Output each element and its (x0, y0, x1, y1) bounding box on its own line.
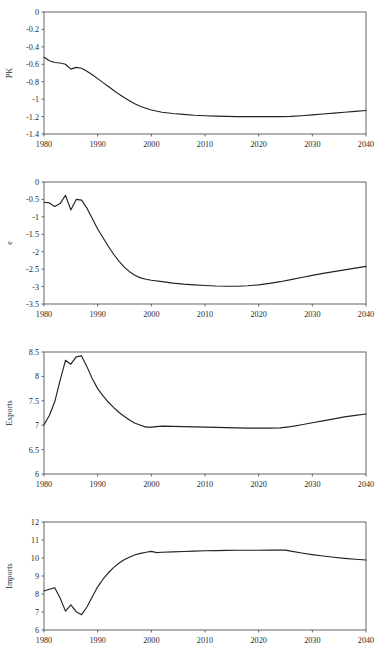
y-tick-label: 8.5 (29, 348, 39, 357)
y-tick-label: 7.5 (29, 397, 39, 406)
y-tick-label: 12 (31, 518, 39, 527)
y-tick-label: 8 (35, 590, 39, 599)
y-tick-label: -1 (32, 213, 39, 222)
x-tick-label: 2010 (197, 480, 213, 489)
y-tick-label: 6.5 (29, 446, 39, 455)
y-axis-title: Imports (5, 563, 14, 588)
x-tick-label: 1990 (89, 636, 105, 645)
data-series-line (44, 356, 366, 428)
panel-exports: 8.587.576.561980199020002010202020302040… (0, 340, 389, 510)
x-tick-label: 2030 (304, 480, 320, 489)
y-tick-label: -0.4 (26, 43, 39, 52)
y-tick-label: 10 (31, 554, 39, 563)
y-tick-label: 0 (35, 8, 39, 17)
y-tick-label: -1 (32, 95, 39, 104)
x-tick-label: 2020 (250, 636, 266, 645)
x-tick-label: 2020 (250, 480, 266, 489)
y-tick-label: 8 (35, 372, 39, 381)
x-tick-label: 2010 (197, 636, 213, 645)
y-tick-label: 6 (35, 626, 39, 635)
y-tick-label: -1.4 (26, 130, 39, 139)
y-tick-label: -0.5 (26, 195, 39, 204)
panel-imports: 12111098761980199020002010202020302040Im… (0, 510, 389, 666)
x-tick-label: 1990 (89, 310, 105, 319)
chart-pk: 0-0.2-0.4-0.6-0.8-1-1.2-1.41980199020002… (0, 0, 389, 170)
data-series-line (44, 57, 366, 116)
x-tick-label: 1980 (36, 480, 52, 489)
x-tick-label: 1990 (89, 140, 105, 149)
y-tick-label: -3 (32, 283, 39, 292)
y-tick-label: -0.8 (26, 78, 39, 87)
x-tick-label: 2040 (358, 480, 374, 489)
y-tick-label: 11 (31, 536, 39, 545)
y-tick-label: -1.2 (26, 113, 39, 122)
y-tick-label: -0.2 (26, 25, 39, 34)
y-tick-label: 7 (35, 608, 39, 617)
y-tick-label: -3.5 (26, 300, 39, 309)
y-tick-label: -0.6 (26, 60, 39, 69)
y-tick-label: -2 (32, 248, 39, 257)
chart-exports: 8.587.576.561980199020002010202020302040… (0, 340, 389, 510)
x-tick-label: 2020 (250, 140, 266, 149)
x-tick-label: 2000 (143, 480, 159, 489)
y-tick-label: 0 (35, 178, 39, 187)
plot-frame (44, 352, 366, 474)
x-tick-label: 2030 (304, 636, 320, 645)
y-tick-label: 6 (35, 470, 39, 479)
y-axis-title: Exports (5, 400, 14, 425)
figure-multi-panel-line-charts: 0-0.2-0.4-0.6-0.8-1-1.2-1.41980199020002… (0, 0, 389, 666)
x-tick-label: 2030 (304, 140, 320, 149)
x-tick-label: 2040 (358, 140, 374, 149)
y-axis-title: e (5, 241, 14, 245)
x-tick-label: 2030 (304, 310, 320, 319)
x-tick-label: 2010 (197, 310, 213, 319)
data-series-line (44, 195, 366, 286)
panel-e: 0-0.5-1-1.5-2-2.5-3-3.519801990200020102… (0, 170, 389, 340)
data-series-line (44, 550, 366, 615)
chart-e: 0-0.5-1-1.5-2-2.5-3-3.519801990200020102… (0, 170, 389, 340)
x-tick-label: 2000 (143, 140, 159, 149)
y-tick-label: -2.5 (26, 265, 39, 274)
chart-imports: 12111098761980199020002010202020302040Im… (0, 510, 389, 666)
x-tick-label: 1990 (89, 480, 105, 489)
y-tick-label: -1.5 (26, 230, 39, 239)
x-tick-label: 1980 (36, 636, 52, 645)
x-tick-label: 2020 (250, 310, 266, 319)
x-tick-label: 2000 (143, 310, 159, 319)
x-tick-label: 2000 (143, 636, 159, 645)
plot-frame (44, 522, 366, 630)
x-tick-label: 1980 (36, 310, 52, 319)
x-tick-label: 2040 (358, 310, 374, 319)
panel-pk: 0-0.2-0.4-0.6-0.8-1-1.2-1.41980199020002… (0, 0, 389, 170)
y-axis-title: PK (5, 68, 14, 79)
x-tick-label: 2040 (358, 636, 374, 645)
y-tick-label: 7 (35, 421, 39, 430)
y-tick-label: 9 (35, 572, 39, 581)
x-tick-label: 2010 (197, 140, 213, 149)
x-tick-label: 1980 (36, 140, 52, 149)
